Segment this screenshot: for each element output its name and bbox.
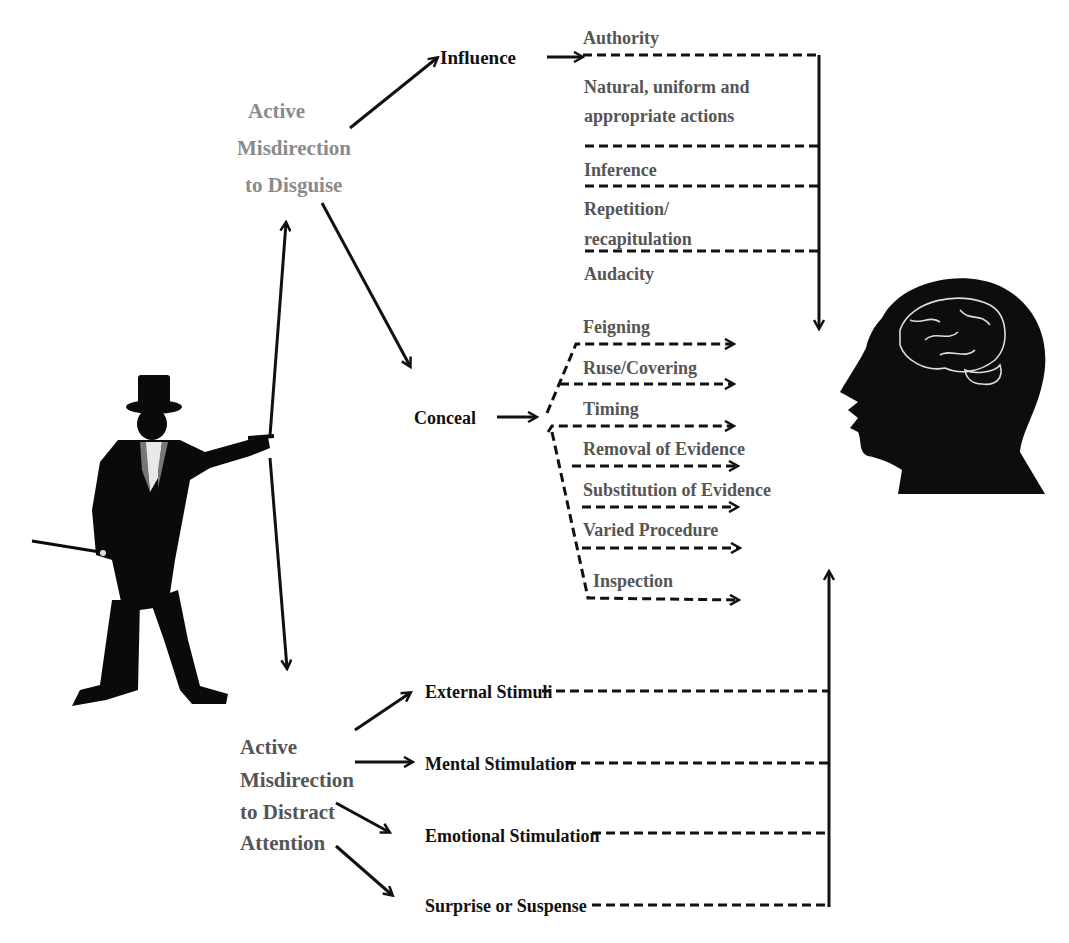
influence-items: Authority Natural, uniform and appropria… [583,28,750,284]
item-external-stimuli: External Stimuli [425,682,553,702]
conceal-label: Conceal [414,408,476,428]
item-mental-stimulation: Mental Stimulation [425,754,575,774]
disguise-title: Active Misdirection to Disguise [237,99,356,197]
arrow-to-conceal [322,203,410,366]
item-audacity: Audacity [584,264,654,284]
item-inference: Inference [584,160,657,180]
arrow-to-disguise [270,223,286,436]
magician-silhouette-icon [32,375,274,706]
item-removal: Removal of Evidence [583,439,745,459]
item-emotional-stimulation: Emotional Stimulation [425,826,600,846]
head-brain-icon [840,278,1045,494]
arrow-to-distract [270,458,287,668]
distract-items: External Stimuli Mental Stimulation Emot… [425,682,600,916]
item-natural-2: appropriate actions [584,106,734,126]
item-substitution: Substitution of Evidence [583,480,771,500]
conceal-items: Feigning Ruse/Covering Timing Removal of… [583,317,771,591]
item-feigning: Feigning [583,317,650,337]
item-repetition-1: Repetition/ [584,199,670,219]
arrow-to-influence [350,58,437,128]
misdirection-diagram: Active Misdirection to Disguise Influenc… [0,0,1069,943]
distract-title: Active Misdirection to Distract Attentio… [240,735,359,855]
item-repetition-2: recapitulation [584,229,692,249]
item-surprise-suspense: Surprise or Suspense [425,896,587,916]
item-inspection: Inspection [593,571,673,591]
item-timing: Timing [583,399,639,419]
item-natural-1: Natural, uniform and [584,77,750,97]
item-varied: Varied Procedure [583,520,718,540]
influence-label: Influence [440,47,516,68]
item-authority: Authority [583,28,659,48]
item-ruse: Ruse/Covering [583,358,697,378]
